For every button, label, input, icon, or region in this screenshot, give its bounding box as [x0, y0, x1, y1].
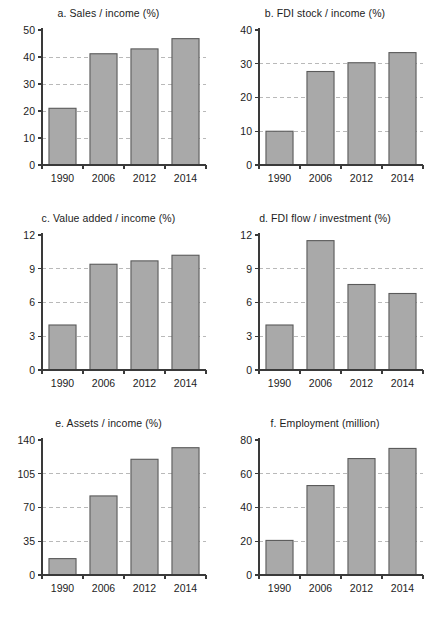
bar [389, 448, 416, 575]
bar-chart-figure: a. Sales / income (%)0102030405019902006… [0, 0, 433, 624]
x-tick-label: 1990 [268, 582, 292, 594]
x-tick-label: 2014 [174, 582, 198, 594]
bar [266, 540, 293, 575]
x-tick-label: 2014 [174, 377, 198, 389]
x-tick-label: 2012 [350, 582, 374, 594]
y-tick-label: 0 [246, 364, 252, 376]
chart-plot-c: 0369121990200620122014 [0, 227, 217, 402]
y-tick-label: 6 [29, 296, 35, 308]
y-tick-label: 105 [17, 468, 35, 480]
bar [49, 325, 76, 370]
bar [172, 448, 199, 575]
chart-panel-e: e. Assets / income (%)035701051401990200… [0, 410, 217, 624]
y-tick-label: 10 [23, 132, 35, 144]
bar [49, 559, 76, 575]
y-tick-label: 9 [29, 263, 35, 275]
y-tick-label: 20 [23, 105, 35, 117]
x-tick-label: 2012 [133, 172, 157, 184]
x-tick-label: 2012 [133, 582, 157, 594]
x-tick-label: 2006 [92, 172, 116, 184]
x-tick-label: 2006 [309, 172, 333, 184]
x-tick-label: 1990 [268, 377, 292, 389]
x-tick-label: 2006 [92, 377, 116, 389]
chart-panel-a: a. Sales / income (%)0102030405019902006… [0, 0, 217, 205]
bar [266, 131, 293, 165]
x-tick-label: 2014 [174, 172, 198, 184]
bar [348, 459, 375, 575]
y-tick-label: 0 [29, 569, 35, 581]
y-tick-label: 30 [23, 78, 35, 90]
x-tick-label: 2006 [92, 582, 116, 594]
chart-panel-f: f. Employment (million)02040608019902006… [217, 410, 433, 624]
x-tick-label: 2012 [350, 172, 374, 184]
chart-panel-c: c. Value added / income (%)0369121990200… [0, 205, 217, 410]
bar [307, 486, 334, 575]
x-tick-label: 1990 [51, 582, 75, 594]
y-tick-label: 30 [240, 58, 252, 70]
y-tick-label: 3 [29, 330, 35, 342]
bar [348, 285, 375, 371]
y-tick-label: 0 [29, 159, 35, 171]
y-tick-label: 0 [246, 159, 252, 171]
bar [307, 241, 334, 370]
chart-panel-b: b. FDI stock / income (%)010203040199020… [217, 0, 433, 205]
x-tick-label: 2012 [350, 377, 374, 389]
y-tick-label: 50 [23, 24, 35, 36]
y-tick-label: 0 [29, 364, 35, 376]
bar [90, 264, 117, 370]
y-tick-label: 40 [240, 24, 252, 36]
y-tick-label: 3 [246, 330, 252, 342]
chart-plot-d: 0369121990200620122014 [217, 227, 433, 402]
y-tick-label: 35 [23, 535, 35, 547]
x-tick-label: 1990 [51, 377, 75, 389]
bar [307, 72, 334, 165]
x-tick-label: 2006 [309, 582, 333, 594]
x-tick-label: 2014 [391, 582, 415, 594]
x-tick-label: 2006 [309, 377, 333, 389]
y-tick-label: 20 [240, 535, 252, 547]
bar [49, 108, 76, 165]
chart-title-a: a. Sales / income (%) [0, 7, 217, 19]
bar [90, 54, 117, 165]
chart-title-c: c. Value added / income (%) [0, 212, 217, 224]
chart-plot-f: 0204060801990200620122014 [217, 432, 433, 607]
x-tick-label: 1990 [51, 172, 75, 184]
chart-plot-b: 0102030401990200620122014 [217, 22, 433, 197]
bar [348, 63, 375, 165]
bar [90, 496, 117, 575]
x-tick-label: 1990 [268, 172, 292, 184]
y-tick-label: 40 [240, 501, 252, 513]
chart-title-f: f. Employment (million) [217, 417, 433, 429]
chart-plot-e: 035701051401990200620122014 [0, 432, 217, 607]
chart-title-b: b. FDI stock / income (%) [217, 7, 433, 19]
chart-panel-d: d. FDI flow / investment (%)036912199020… [217, 205, 433, 410]
bar [131, 49, 158, 165]
y-tick-label: 0 [246, 569, 252, 581]
bar [172, 255, 199, 370]
bar [389, 53, 416, 165]
y-tick-label: 9 [246, 263, 252, 275]
y-tick-label: 6 [246, 296, 252, 308]
chart-title-e: e. Assets / income (%) [0, 417, 217, 429]
y-tick-label: 12 [240, 229, 252, 241]
bar [172, 39, 199, 165]
x-tick-label: 2012 [133, 377, 157, 389]
y-tick-label: 10 [240, 125, 252, 137]
bar [266, 325, 293, 370]
bar [389, 294, 416, 371]
y-tick-label: 12 [23, 229, 35, 241]
y-tick-label: 40 [23, 51, 35, 63]
bar [131, 261, 158, 370]
y-tick-label: 60 [240, 468, 252, 480]
y-tick-label: 70 [23, 501, 35, 513]
y-tick-label: 80 [240, 434, 252, 446]
chart-title-d: d. FDI flow / investment (%) [217, 212, 433, 224]
chart-plot-a: 010203040501990200620122014 [0, 22, 217, 197]
y-tick-label: 20 [240, 91, 252, 103]
x-tick-label: 2014 [391, 172, 415, 184]
x-tick-label: 2014 [391, 377, 415, 389]
bar [131, 459, 158, 575]
y-tick-label: 140 [17, 434, 35, 446]
